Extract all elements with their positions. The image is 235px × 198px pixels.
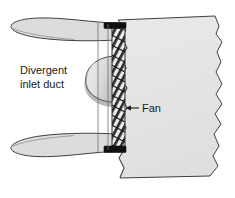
- engine-body: [118, 16, 222, 178]
- fan-top-end-cap: [104, 23, 126, 29]
- inlet-duct-label-line1: Divergent: [20, 64, 67, 76]
- fan-spinner-hub: [84, 56, 116, 107]
- upper-duct-lip: [11, 18, 117, 41]
- diagram-canvas: Divergent inlet duct Fan: [0, 0, 235, 198]
- fan-bottom-end-cap: [104, 146, 126, 153]
- fan-label: Fan: [142, 102, 161, 114]
- engine-inlet-diagram: Divergent inlet duct Fan: [0, 0, 235, 198]
- engine-body-outline: [118, 16, 222, 178]
- upper-duct-lip-outline: [11, 18, 117, 41]
- inlet-duct-label-line2: inlet duct: [20, 78, 64, 90]
- lower-duct-lip: [11, 133, 117, 156]
- fan-blade-row: [110, 26, 128, 153]
